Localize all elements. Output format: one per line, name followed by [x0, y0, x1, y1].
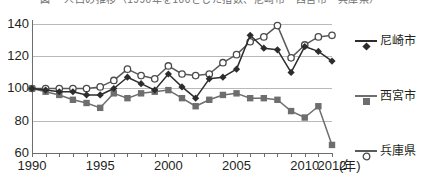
x-tick-1994: [87, 153, 88, 157]
x-tick-1993: [73, 153, 74, 157]
open-circle-marker-icon: [355, 144, 377, 158]
x-tick-1999: [155, 153, 156, 157]
x-tick-2008: [277, 153, 278, 157]
x-tick-1998: [141, 153, 142, 157]
x-tick-1997: [127, 153, 128, 157]
legend-label-hyogo: 兵庫県: [380, 145, 416, 158]
x-tick-1992: [59, 153, 60, 157]
x-tick-2011: [318, 153, 319, 157]
population-index-line-chart: 図 人口の推移（1990年を100とした指数、尼崎市・西宮市・兵庫県） 140 …: [0, 0, 422, 192]
x-tick-label-1990: 1990: [18, 159, 47, 173]
x-tick-label-2005: 2005: [222, 159, 251, 173]
x-tick-2002: [196, 153, 197, 157]
x-tick-2003: [209, 153, 210, 157]
x-tick-2000: [168, 153, 169, 157]
y-axis-line: [32, 20, 33, 157]
legend-item-nishinomiya[interactable]: 西宮市: [355, 87, 422, 105]
y-tick-label-80: 80: [3, 114, 29, 127]
x-tick-2004: [223, 153, 224, 157]
x-axis-unit-label: (年): [339, 159, 361, 173]
x-tick-label-1995: 1995: [86, 159, 115, 173]
x-tick-2010: [305, 153, 306, 157]
y-tick-label-100: 100: [3, 81, 29, 94]
y-tick-label-140: 140: [3, 17, 29, 30]
x-tick-2005: [237, 153, 238, 157]
gridline-100: [32, 88, 332, 89]
x-tick-2006: [250, 153, 251, 157]
x-tick-1991: [46, 153, 47, 157]
legend-label-nishinomiya: 西宮市: [380, 90, 416, 103]
x-tick-label-2010: 2010: [290, 159, 319, 173]
gridline-140: [32, 24, 332, 25]
gridline-80: [32, 121, 332, 122]
x-tick-1996: [114, 153, 115, 157]
x-tick-2009: [291, 153, 292, 157]
x-tick-1995: [100, 153, 101, 157]
legend-item-hyogo[interactable]: 兵庫県: [355, 142, 422, 160]
legend-item-amagasaki[interactable]: 尼崎市: [355, 32, 422, 50]
x-tick-1990: [32, 153, 33, 157]
x-tick-label-2000: 2000: [154, 159, 183, 173]
plot-area: [32, 24, 332, 153]
chart-title-strip: 図 人口の推移（1990年を100とした指数、尼崎市・西宮市・兵庫県）: [0, 0, 422, 9]
filled-diamond-marker-icon: [355, 34, 377, 48]
y-tick-label-120: 120: [3, 49, 29, 62]
legend-label-amagasaki: 尼崎市: [380, 35, 416, 48]
gridline-120: [32, 56, 332, 57]
x-tick-2012: [332, 153, 333, 157]
x-tick-2001: [182, 153, 183, 157]
chart-legend: 尼崎市 西宮市 兵庫県: [355, 24, 422, 154]
x-tick-2007: [264, 153, 265, 157]
page-title: 図 人口の推移（1990年を100とした指数、尼崎市・西宮市・兵庫県）: [40, 0, 380, 6]
filled-square-marker-icon: [355, 89, 377, 103]
